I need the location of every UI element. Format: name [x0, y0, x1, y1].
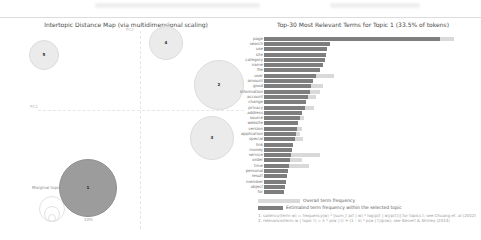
term-bars [264, 47, 481, 51]
topic-circle-3[interactable]: 3 [190, 116, 234, 160]
term-bars [264, 180, 481, 184]
topic-frequency-bar [264, 158, 290, 162]
cropped-controls-remnant [330, 3, 420, 8]
pc2-axis-line [140, 31, 141, 229]
pyldavis-screen: Intertopic Distance Map (via multidimens… [0, 0, 481, 240]
terms-panel: Top-30 Most Relevant Terms for Topic 1 (… [245, 17, 481, 240]
term-row[interactable]: privacy [245, 105, 481, 110]
term-row[interactable]: link [245, 142, 481, 147]
term-bars [264, 185, 481, 189]
term-label: good [245, 84, 263, 88]
cropped-controls-remnant [95, 3, 260, 8]
topic-number: 1 [87, 186, 90, 190]
term-row[interactable]: website [245, 121, 481, 126]
term-row[interactable]: site [245, 52, 481, 57]
topic-number: 2 [218, 83, 221, 87]
legend-topic-label: Estimated term frequency within the sele… [286, 205, 402, 210]
term-label: file [245, 68, 263, 72]
term-bars [264, 174, 481, 178]
pc1-axis-label: PC1 [30, 104, 38, 109]
term-label: special [245, 137, 263, 141]
topic-frequency-swatch [258, 206, 283, 210]
term-row[interactable]: time [245, 163, 481, 168]
topic-frequency-bar [264, 74, 316, 78]
terms-title: Top-30 Most Relevant Terms for Topic 1 (… [245, 21, 481, 28]
term-row[interactable]: category [245, 57, 481, 62]
topic-frequency-bar [264, 58, 325, 62]
term-row[interactable]: order [245, 158, 481, 163]
term-bars [264, 148, 481, 152]
term-bars [264, 79, 481, 83]
topic-frequency-bar [264, 47, 327, 51]
footnotes: 1. saliency(term w) = frequency(w) * [su… [258, 213, 476, 223]
topic-number: 4 [165, 41, 168, 45]
term-row[interactable]: special [245, 137, 481, 142]
term-label: information [245, 90, 263, 94]
term-row[interactable]: change [245, 100, 481, 105]
term-row[interactable]: result [245, 174, 481, 179]
topic-frequency-bar [264, 95, 308, 99]
term-label: site [245, 53, 263, 57]
term-row[interactable]: name [245, 62, 481, 67]
term-row[interactable]: information [245, 89, 481, 94]
term-row[interactable]: application [245, 131, 481, 136]
topic-number: 5 [43, 53, 46, 57]
term-row[interactable]: member [245, 179, 481, 184]
term-row[interactable]: use [245, 47, 481, 52]
legend-topic-row: Estimated term frequency within the sele… [258, 204, 402, 211]
topic-circle-4[interactable]: 4 [149, 26, 183, 60]
term-row[interactable]: user [245, 73, 481, 78]
topic-frequency-bar [264, 53, 326, 57]
topic-circle-5[interactable]: 5 [29, 40, 59, 70]
term-bars [264, 53, 481, 57]
term-row[interactable]: page [245, 36, 481, 41]
term-row[interactable]: account [245, 94, 481, 99]
term-label: website [245, 121, 263, 125]
term-row[interactable]: file [245, 68, 481, 73]
topic-frequency-bar [264, 121, 298, 125]
term-row[interactable]: search [245, 41, 481, 46]
term-bars [264, 74, 481, 78]
topic-frequency-bar [264, 37, 440, 41]
overall-frequency-swatch [258, 199, 300, 203]
term-row[interactable]: for [245, 190, 481, 195]
term-row[interactable]: version [245, 126, 481, 131]
term-row[interactable]: object [245, 184, 481, 189]
topic-circle-2[interactable]: 2 [194, 60, 244, 110]
term-bars [264, 164, 481, 168]
term-label: use [245, 47, 263, 51]
term-bars [264, 153, 481, 157]
pc2-axis-label: PC2 [126, 27, 134, 32]
term-bars [264, 100, 481, 104]
term-bars [264, 169, 481, 173]
topic-number: 3 [211, 136, 214, 140]
term-row[interactable]: amount [245, 78, 481, 83]
term-row[interactable]: source [245, 115, 481, 120]
topic-frequency-bar [264, 90, 310, 94]
topic-frequency-bar [264, 111, 302, 115]
term-bars [264, 111, 481, 115]
term-row[interactable]: service [245, 153, 481, 158]
topic-circle-1[interactable]: 1 [59, 159, 117, 217]
topic-frequency-bar [264, 169, 288, 173]
term-label: order [245, 158, 263, 162]
terms-list: pagesearchusesitecategorynamefileuseramo… [245, 36, 481, 195]
legend-overall-label: Overall term frequency [303, 198, 355, 203]
topic-frequency-bar [264, 84, 311, 88]
topic-frequency-bar [264, 68, 320, 72]
term-label: link [245, 143, 263, 147]
topic-frequency-bar [264, 63, 323, 67]
term-label: result [245, 174, 263, 178]
size-legend-10pct: 10% [84, 217, 93, 222]
term-row[interactable]: personal [245, 168, 481, 173]
term-bars [264, 132, 481, 136]
term-row[interactable]: good [245, 84, 481, 89]
term-row[interactable]: money [245, 147, 481, 152]
term-bars [264, 137, 481, 141]
topic-frequency-bar [264, 143, 293, 147]
topic-frequency-bar [264, 116, 300, 120]
term-bars [264, 90, 481, 94]
term-row[interactable]: address [245, 110, 481, 115]
term-bars [264, 143, 481, 147]
topic-map-plot[interactable]: PC2 PC1 Marginal topic distribution 2% 5… [8, 17, 244, 240]
